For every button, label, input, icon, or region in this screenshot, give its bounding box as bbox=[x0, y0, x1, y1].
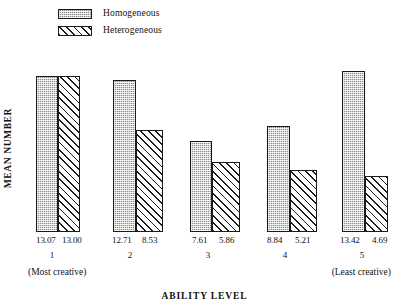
bar-homogeneous-level-1 bbox=[36, 76, 58, 232]
category-label-1: 1 bbox=[42, 251, 62, 260]
value-label-homogeneous-level-3: 7.61 bbox=[192, 236, 207, 245]
bar-homogeneous-level-2 bbox=[113, 80, 136, 232]
least-creative-annotation: (Least creative) bbox=[332, 268, 391, 278]
bar-value-labels: 13.0713.0012.718.537.615.868.845.2113.42… bbox=[0, 236, 409, 248]
value-label-homogeneous-level-4: 8.84 bbox=[267, 236, 282, 245]
bar-heterogeneous-level-1 bbox=[58, 76, 80, 232]
bar-homogeneous-level-3 bbox=[190, 141, 212, 232]
bar-heterogeneous-level-5 bbox=[365, 176, 388, 232]
value-label-homogeneous-level-2: 12.71 bbox=[112, 236, 132, 245]
value-label-heterogeneous-level-4: 5.21 bbox=[295, 236, 310, 245]
bar-heterogeneous-level-4 bbox=[290, 170, 317, 232]
value-label-heterogeneous-level-1: 13.00 bbox=[62, 236, 82, 245]
category-label-5: 5 bbox=[352, 251, 372, 260]
category-label-4: 4 bbox=[275, 251, 295, 260]
value-label-heterogeneous-level-2: 8.53 bbox=[142, 236, 157, 245]
most-creative-annotation: (Most creative) bbox=[28, 268, 86, 278]
bar-heterogeneous-level-2 bbox=[136, 130, 163, 232]
bar-heterogeneous-level-3 bbox=[212, 162, 240, 232]
value-label-homogeneous-level-5: 13.42 bbox=[340, 236, 360, 245]
category-label-3: 3 bbox=[198, 251, 218, 260]
bar-chart-figure: Homogeneous Heterogeneous MEAN NUMBER 13… bbox=[0, 0, 409, 306]
bar-homogeneous-level-4 bbox=[267, 126, 290, 232]
plot-area bbox=[0, 0, 409, 232]
category-extreme-annotations: (Most creative) (Least creative) bbox=[0, 268, 409, 282]
value-label-heterogeneous-level-3: 5.86 bbox=[219, 236, 234, 245]
value-label-homogeneous-level-1: 13.07 bbox=[36, 236, 56, 245]
category-label-2: 2 bbox=[120, 251, 140, 260]
category-labels: 12345 bbox=[0, 251, 409, 263]
value-label-heterogeneous-level-5: 4.69 bbox=[372, 236, 387, 245]
x-axis-title: ABILITY LEVEL bbox=[0, 291, 409, 301]
bar-homogeneous-level-5 bbox=[342, 71, 365, 232]
